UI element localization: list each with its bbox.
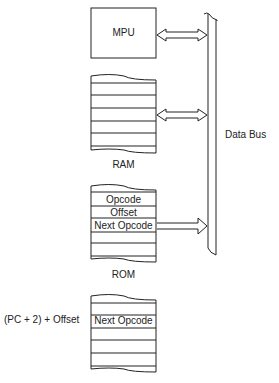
mpu-label: MPU [91,27,156,39]
target-cell-next-opcode: Next Opcode [91,315,156,327]
rom-cell-offset: Offset [91,207,156,219]
ram-bus-arrow [157,109,207,121]
ram-label: RAM [91,159,156,171]
data-bus-label: Data Bus [225,129,266,141]
mpu-bus-arrow [157,29,207,41]
target-block [91,295,156,373]
data-bus [204,13,217,255]
target-address-label: (PC + 2) + Offset [4,314,79,326]
rom-cell-opcode: Opcode [91,194,156,206]
rom-bus-arrow [157,218,207,234]
rom-cell-next-opcode: Next Opcode [91,220,156,232]
ram-block [91,75,156,154]
rom-label: ROM [91,269,156,281]
